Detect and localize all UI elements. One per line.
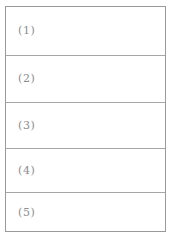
- page-root: (1) (2) (3) (4) (5): [0, 0, 175, 237]
- table-row[interactable]: (3): [6, 103, 165, 149]
- numbered-row-table: (1) (2) (3) (4) (5): [5, 6, 166, 232]
- table-row[interactable]: (1): [6, 7, 165, 56]
- row-label-1: (1): [6, 25, 35, 36]
- row-content-1[interactable]: [35, 7, 165, 55]
- table-row[interactable]: (4): [6, 149, 165, 194]
- row-label-3: (3): [6, 120, 35, 131]
- row-content-2[interactable]: [35, 56, 165, 103]
- row-label-2: (2): [6, 73, 35, 84]
- row-label-5: (5): [6, 207, 35, 218]
- table-row[interactable]: (5): [6, 193, 165, 231]
- row-content-5[interactable]: [35, 193, 165, 231]
- row-label-4: (4): [6, 165, 35, 176]
- table-row[interactable]: (2): [6, 56, 165, 104]
- row-content-3[interactable]: [35, 103, 165, 148]
- row-content-4[interactable]: [35, 149, 165, 193]
